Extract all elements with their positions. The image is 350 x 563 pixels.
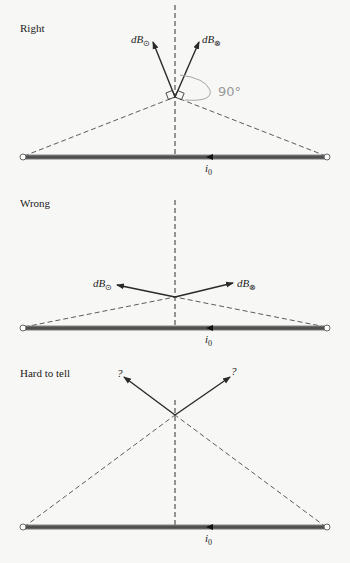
vector-arrow-left	[153, 42, 175, 97]
biot-savart-diagram: 90° dB⊙ dB⊗ i0 dB⊙ dB⊗ i0 ? ? i0	[0, 0, 350, 563]
current-label: i0	[205, 532, 212, 547]
position-line-left	[24, 297, 175, 327]
wire-end-right	[324, 325, 330, 331]
position-line-left	[24, 97, 175, 156]
position-line-right	[175, 297, 326, 327]
vector-label-right: dB⊗	[202, 33, 221, 48]
vector-arrow-right	[175, 377, 230, 415]
angle-arc-annotation	[180, 75, 210, 100]
panel-hard-to-tell: ? ? i0	[20, 365, 330, 547]
wire	[24, 326, 326, 331]
vector-arrow-right	[175, 42, 199, 97]
vector-arrow-left	[117, 285, 175, 297]
vector-label-right: ?	[231, 365, 237, 377]
wire-end-right	[324, 154, 330, 160]
vector-label-right: dB⊗	[237, 277, 256, 292]
position-line-left	[24, 415, 175, 527]
vector-arrow-right	[175, 283, 233, 297]
vector-arrow-left	[124, 377, 175, 415]
wire	[24, 155, 326, 160]
panel-right: 90° dB⊙ dB⊗ i0	[20, 5, 330, 177]
wire-end-right	[324, 524, 330, 530]
current-label: i0	[205, 162, 212, 177]
wire-end-left	[20, 524, 26, 530]
position-line-right	[175, 415, 326, 527]
vector-label-left: dB⊙	[93, 277, 112, 292]
vector-label-left: dB⊙	[131, 33, 150, 48]
wire	[24, 525, 326, 530]
wire-end-left	[20, 325, 26, 331]
panel-wrong: dB⊙ dB⊗ i0	[20, 200, 330, 348]
wire-end-left	[20, 154, 26, 160]
current-label: i0	[205, 333, 212, 348]
vector-label-left: ?	[117, 367, 123, 379]
angle-annotation: 90°	[218, 84, 241, 99]
position-line-right	[175, 97, 326, 156]
